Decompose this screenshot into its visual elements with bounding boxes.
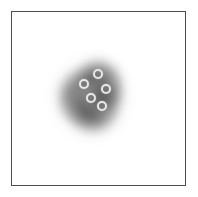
density-blob-lobe-left bbox=[52, 63, 116, 131]
plot-frame bbox=[11, 11, 186, 186]
ring-marker-5[interactable] bbox=[97, 101, 107, 111]
ring-marker-4[interactable] bbox=[86, 93, 96, 103]
figure-canvas bbox=[0, 0, 198, 197]
ring-marker-3[interactable] bbox=[101, 84, 111, 94]
density-blob-lobe-bottom bbox=[62, 81, 124, 139]
ring-marker-1[interactable] bbox=[79, 79, 89, 89]
plot-area bbox=[12, 12, 185, 185]
ring-marker-2[interactable] bbox=[93, 69, 103, 79]
